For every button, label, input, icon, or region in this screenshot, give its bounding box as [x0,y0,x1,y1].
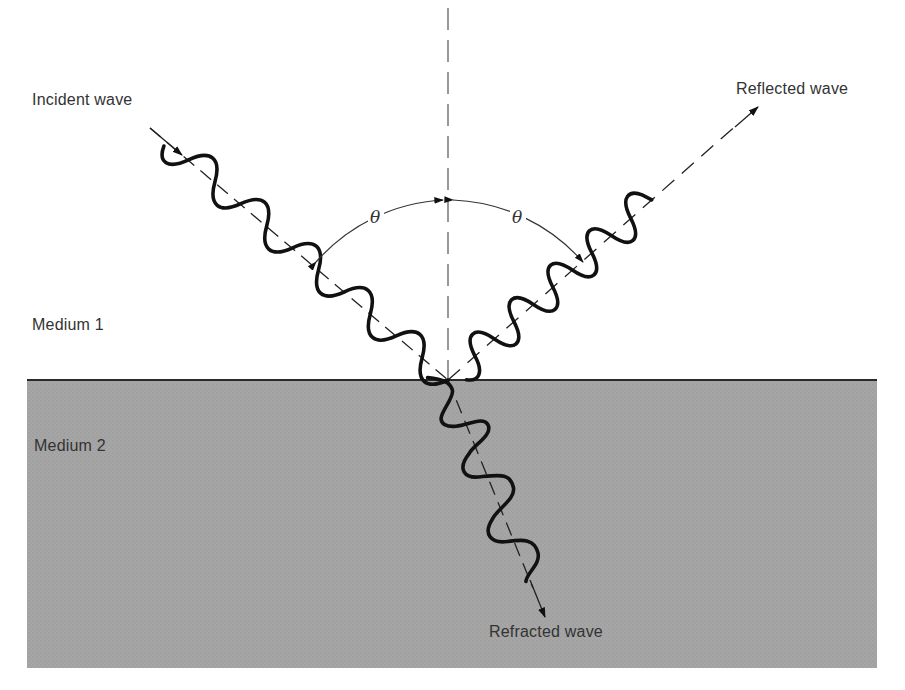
theta-reflected-label: θ [512,207,522,227]
reflected-arrow-icon [735,107,758,127]
incident-wave-label: Incident wave [32,91,132,109]
reflected-ray [448,122,740,380]
wave-diagram [0,0,905,690]
reflected-wave-label: Reflected wave [736,80,848,98]
refracted-wave-label: Refracted wave [489,623,603,641]
theta-incident-label: θ [370,207,380,227]
incident-arrow-icon [150,128,182,155]
medium-2-label: Medium 2 [34,437,106,455]
medium-2-region [27,380,877,668]
incident-ray [150,128,448,380]
medium-1-label: Medium 1 [32,316,104,334]
